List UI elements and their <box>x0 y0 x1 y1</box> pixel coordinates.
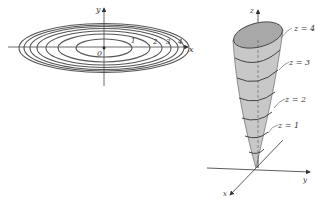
x-axis-3d-label: x <box>223 190 227 198</box>
contour-plot: 0 y x 1 2 3 4 <box>8 5 194 86</box>
level-label-2: 2 <box>152 38 158 46</box>
level-label-3: 3 <box>166 38 171 46</box>
y-axis-3d <box>207 168 310 172</box>
origin-point <box>103 47 106 50</box>
figure: 0 y x 1 2 3 4 <box>0 0 317 198</box>
level-z4-label: z = 4 <box>293 24 315 33</box>
surface-plot: z = 4 z = 3 z = 2 z = 1 z y x <box>207 7 315 198</box>
origin-label: 0 <box>97 49 102 58</box>
x-axis-label: x <box>189 45 194 54</box>
level-label-4: 4 <box>177 38 182 46</box>
z-axis-label: z <box>249 7 254 15</box>
y-axis-label: y <box>95 5 101 14</box>
y-axis-3d-label: y <box>302 176 308 184</box>
level-z1-label: z = 1 <box>277 121 299 130</box>
level-z2-label: z = 2 <box>284 95 306 104</box>
level-z3-label: z = 3 <box>288 58 310 67</box>
level-label-1: 1 <box>131 37 135 45</box>
